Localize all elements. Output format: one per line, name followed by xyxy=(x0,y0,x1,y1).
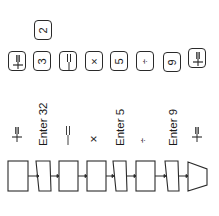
block-8-output xyxy=(188,162,207,191)
flow-arrows xyxy=(28,175,188,178)
block-flow-diagram xyxy=(0,0,219,216)
block-1 xyxy=(8,161,28,191)
block-5 xyxy=(113,161,127,191)
block-7 xyxy=(165,161,179,191)
block-6 xyxy=(136,161,155,191)
block-3 xyxy=(59,161,78,191)
block-4 xyxy=(87,161,106,191)
